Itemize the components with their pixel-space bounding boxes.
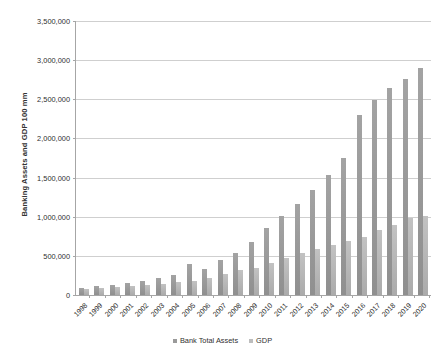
x-tick-label: 2011 xyxy=(272,301,289,318)
x-tick-label: 2009 xyxy=(241,301,259,319)
x-tick-label: 2007 xyxy=(210,301,228,319)
bars-layer xyxy=(76,21,431,295)
bar xyxy=(269,263,274,295)
y-tick-label: 1,000,000 xyxy=(8,213,70,222)
legend-label: Bank Total Assets xyxy=(180,336,238,345)
bar xyxy=(115,287,120,295)
bar-group xyxy=(215,21,230,295)
x-tick-label: 2010 xyxy=(257,301,275,319)
bar-group xyxy=(261,21,276,295)
bar-group xyxy=(91,21,106,295)
x-tick-label: 2015 xyxy=(334,301,352,319)
bar-group xyxy=(308,21,323,295)
x-label-cell: 2009 xyxy=(245,299,260,333)
bar-group xyxy=(76,21,91,295)
x-tick-label: 2004 xyxy=(164,301,182,319)
x-label-cell: 2003 xyxy=(152,299,167,333)
bar xyxy=(161,284,166,295)
bar-group xyxy=(122,21,137,295)
bar xyxy=(300,253,305,295)
x-tick-label: 2005 xyxy=(179,301,197,319)
bar xyxy=(207,278,212,295)
x-tick-label: 2002 xyxy=(133,301,151,319)
x-tick-label: 2016 xyxy=(349,301,367,319)
bar xyxy=(315,249,320,295)
legend-label: GDP xyxy=(256,336,272,345)
x-label-cell: 1998 xyxy=(75,299,90,333)
bar-group xyxy=(385,21,400,295)
bar xyxy=(346,241,351,295)
x-tick-label: 2006 xyxy=(195,301,213,319)
legend-item[interactable]: GDP xyxy=(249,336,272,345)
legend-item[interactable]: Bank Total Assets xyxy=(173,336,238,345)
x-tick-label: 2013 xyxy=(303,301,321,319)
x-label-cell: 2001 xyxy=(121,299,136,333)
y-tick-label: 1,500,000 xyxy=(8,174,70,183)
x-axis-tick-labels: 1998199920002001200220032004200520062007… xyxy=(75,299,430,333)
bar-group xyxy=(230,21,245,295)
x-tick-label: 1998 xyxy=(71,301,89,319)
bar-group xyxy=(246,21,261,295)
bar-group xyxy=(277,21,292,295)
x-tick-label: 2003 xyxy=(149,301,167,319)
bar xyxy=(223,274,228,295)
x-tick-label: 2001 xyxy=(118,301,136,319)
y-tick-label: 500,000 xyxy=(8,252,70,261)
legend-swatch-icon xyxy=(173,339,177,343)
x-label-cell: 2018 xyxy=(384,299,399,333)
x-label-cell: 2015 xyxy=(337,299,352,333)
x-tick-label: 2019 xyxy=(396,301,414,319)
x-label-cell: 2017 xyxy=(368,299,383,333)
y-tick-label: 2,500,000 xyxy=(8,95,70,104)
legend-swatch-icon xyxy=(249,339,253,343)
bar xyxy=(145,285,150,295)
bar-group xyxy=(169,21,184,295)
bar xyxy=(192,281,197,295)
x-label-cell: 2020 xyxy=(415,299,430,333)
x-label-cell: 2010 xyxy=(260,299,275,333)
bar-group xyxy=(138,21,153,295)
bar-group xyxy=(354,21,369,295)
bar xyxy=(331,245,336,295)
bar-group xyxy=(369,21,384,295)
x-label-cell: 2006 xyxy=(199,299,214,333)
bar xyxy=(238,270,243,295)
y-axis-title: Banking Assets and GDP 100 mm xyxy=(20,35,29,275)
bar xyxy=(99,288,104,295)
x-label-cell: 2014 xyxy=(322,299,337,333)
x-tick-label: 1999 xyxy=(87,301,105,319)
bar-group xyxy=(107,21,122,295)
chart-legend: Bank Total AssetsGDP xyxy=(0,336,445,345)
plot-area xyxy=(75,21,431,296)
x-label-cell: 2002 xyxy=(137,299,152,333)
x-label-cell: 1999 xyxy=(90,299,105,333)
bar-group xyxy=(416,21,431,295)
x-label-cell: 2007 xyxy=(214,299,229,333)
y-tick-label: 3,000,000 xyxy=(8,56,70,65)
x-label-cell: 2013 xyxy=(307,299,322,333)
bar xyxy=(254,268,259,295)
bar-chart: Banking Assets and GDP 100 mm 0500,0001,… xyxy=(0,0,445,354)
y-tick-label: 3,500,000 xyxy=(8,17,70,26)
bar xyxy=(284,258,289,295)
x-label-cell: 2012 xyxy=(291,299,306,333)
x-label-cell: 2019 xyxy=(399,299,414,333)
x-label-cell: 2004 xyxy=(168,299,183,333)
y-tick-label: 0 xyxy=(8,291,70,300)
bar xyxy=(176,282,181,295)
x-tick-label: 2000 xyxy=(102,301,120,319)
x-label-cell: 2000 xyxy=(106,299,121,333)
bar xyxy=(377,230,382,295)
bar-group xyxy=(338,21,353,295)
bar-group xyxy=(323,21,338,295)
bar-group xyxy=(292,21,307,295)
y-tick-label: 2,000,000 xyxy=(8,134,70,143)
x-tick-label: 2008 xyxy=(226,301,244,319)
bar-group xyxy=(153,21,168,295)
bar xyxy=(408,218,413,296)
bar xyxy=(362,237,367,295)
x-tick-label: 2018 xyxy=(380,301,398,319)
bar xyxy=(392,225,397,295)
bar-group xyxy=(200,21,215,295)
x-tick-label: 2017 xyxy=(365,301,383,319)
